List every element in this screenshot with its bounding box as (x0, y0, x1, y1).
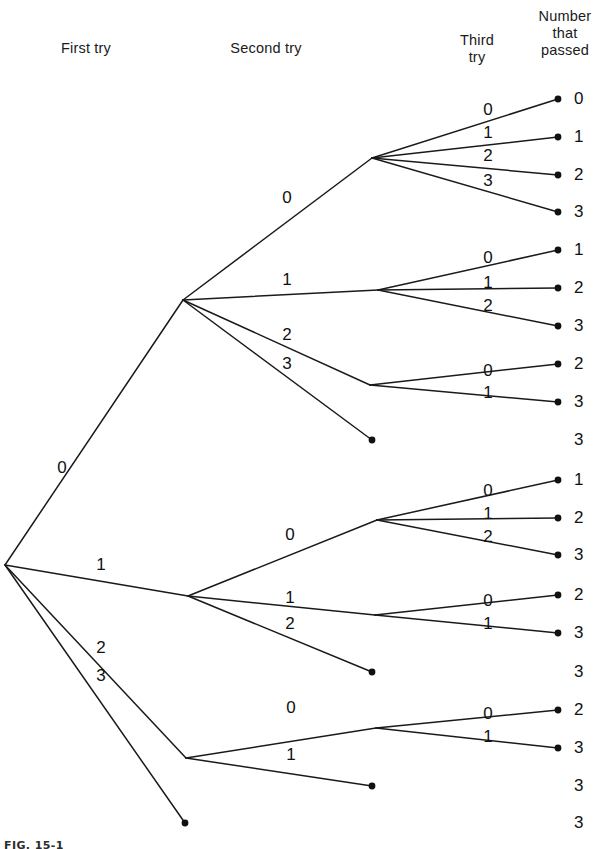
tree-branch (188, 596, 372, 672)
outcome-value: 3 (574, 393, 594, 410)
branch-label: 0 (279, 526, 301, 543)
column-header-second-try: Second try (230, 40, 301, 57)
endpoint-dot (555, 592, 562, 599)
tree-branch (378, 288, 558, 290)
branch-label: 0 (51, 459, 73, 476)
tree-branch (5, 300, 183, 565)
tree-branch (378, 250, 558, 290)
tree-branch (377, 520, 558, 555)
branch-label: 2 (90, 639, 112, 656)
branch-label: 1 (477, 124, 499, 141)
tree-branch (183, 290, 378, 300)
outcome-value: 2 (574, 586, 594, 603)
branch-label: 2 (477, 528, 499, 545)
tree-branch (372, 137, 558, 158)
branch-label: 3 (477, 172, 499, 189)
tree-diagram-svg (0, 0, 615, 849)
outcome-value: 2 (574, 701, 594, 718)
branch-label: 0 (280, 699, 302, 716)
endpoint-dot (369, 437, 376, 444)
branch-label: 1 (477, 615, 499, 632)
branch-label: 1 (279, 589, 301, 606)
branch-label: 3 (90, 667, 112, 684)
outcome-value: 3 (574, 777, 594, 794)
tree-branch (377, 518, 558, 520)
branch-label: 0 (477, 705, 499, 722)
endpoint-dot (555, 172, 562, 179)
endpoint-dot (555, 630, 562, 637)
endpoint-dot (555, 96, 562, 103)
branch-label: 1 (477, 384, 499, 401)
endpoint-dot (555, 707, 562, 714)
outcome-value: 3 (574, 431, 594, 448)
endpoint-dot (555, 477, 562, 484)
branch-label: 0 (477, 592, 499, 609)
endpoint-dot (555, 247, 562, 254)
branch-label: 0 (477, 249, 499, 266)
branch-label: 0 (477, 362, 499, 379)
figure-caption: FIG. 15-1 (4, 839, 64, 849)
tree-branch (370, 385, 558, 402)
branch-label: 2 (477, 147, 499, 164)
outcome-value: 3 (574, 663, 594, 680)
endpoint-dot (555, 399, 562, 406)
outcome-value: 2 (574, 166, 594, 183)
outcome-value: 3 (574, 624, 594, 641)
tree-branch (5, 565, 186, 758)
outcome-value: 3 (574, 814, 594, 831)
tree-branch (372, 99, 558, 158)
branch-label: 1 (280, 746, 302, 763)
branch-label: 1 (477, 728, 499, 745)
endpoint-dot (369, 783, 376, 790)
figure-canvas: First trySecond tryThird tryNumber that … (0, 0, 615, 849)
branch-label: 0 (477, 101, 499, 118)
endpoint-dot (555, 323, 562, 330)
outcome-value: 1 (574, 128, 594, 145)
branch-label: 0 (477, 482, 499, 499)
branch-label: 2 (279, 615, 301, 632)
branch-label: 1 (477, 274, 499, 291)
outcome-value: 2 (574, 355, 594, 372)
tree-branch (375, 615, 558, 633)
tree-branch (376, 710, 558, 728)
outcome-value: 3 (574, 546, 594, 563)
branch-label: 3 (276, 355, 298, 372)
tree-branch (378, 290, 558, 326)
outcome-value: 3 (574, 203, 594, 220)
outcome-value: 1 (574, 241, 594, 258)
branch-label: 1 (477, 505, 499, 522)
branch-label: 2 (477, 297, 499, 314)
endpoint-dot (555, 552, 562, 559)
tree-branch (186, 758, 372, 786)
outcome-value: 1 (574, 471, 594, 488)
outcome-value: 3 (574, 317, 594, 334)
branch-label: 0 (276, 189, 298, 206)
tree-endpoint-dots (182, 96, 562, 827)
endpoint-dot (555, 745, 562, 752)
branch-label: 2 (276, 326, 298, 343)
tree-branch (370, 364, 558, 385)
endpoint-dot (555, 285, 562, 292)
outcome-value: 2 (574, 279, 594, 296)
endpoint-dot (555, 134, 562, 141)
endpoint-dot (555, 361, 562, 368)
tree-branch (376, 728, 558, 748)
branch-label: 1 (276, 271, 298, 288)
endpoint-dot (182, 820, 189, 827)
outcome-value: 2 (574, 509, 594, 526)
endpoint-dot (369, 669, 376, 676)
endpoint-dot (555, 209, 562, 216)
endpoint-dot (555, 515, 562, 522)
column-header-first-try: First try (61, 40, 111, 57)
tree-branch (5, 565, 185, 823)
tree-branch (377, 480, 558, 520)
outcome-value: 0 (574, 90, 594, 107)
outcome-value: 3 (574, 739, 594, 756)
branch-label: 1 (90, 556, 112, 573)
tree-branch (375, 595, 558, 615)
column-header-third-try: Third try (460, 32, 494, 66)
column-header-number-passed: Number that passed (539, 8, 592, 59)
